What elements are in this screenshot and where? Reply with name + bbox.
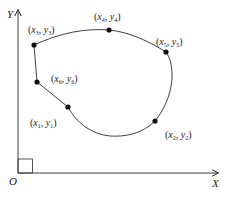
- origin-label: O: [9, 175, 17, 187]
- point-p3: [31, 42, 36, 47]
- y-axis-label: Y: [7, 8, 15, 20]
- point-p6: [34, 79, 39, 84]
- point-p4: [106, 27, 111, 32]
- right-angle-marker: [18, 159, 33, 173]
- point-label-p3: (x3, y3): [28, 24, 55, 36]
- point-label-p4: (x4, y4): [94, 11, 121, 23]
- closed-curve-diagram: Y X O (x3, y3) (x4, y4) (x5, y5) (x6, y6…: [0, 0, 228, 200]
- point-label-p5: (x5, y5): [156, 36, 183, 48]
- point-p2: [152, 118, 157, 123]
- point-label-p1: (x1, y1): [30, 117, 57, 129]
- x-axis-label: X: [211, 177, 220, 189]
- point-p1: [65, 104, 70, 109]
- point-label-p2: (x2, y2): [165, 129, 192, 141]
- point-label-p6: (x6, y6): [51, 73, 78, 85]
- point-p5: [163, 49, 168, 54]
